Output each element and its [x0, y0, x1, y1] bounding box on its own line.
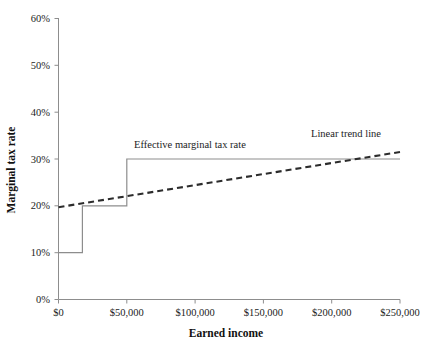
y-tick-label: 50%	[31, 60, 51, 71]
x-tick-label: $250,000	[380, 307, 419, 318]
x-tick-label: $100,000	[175, 307, 214, 318]
linear-trend-line	[59, 152, 401, 207]
x-tick-label: $200,000	[312, 307, 351, 318]
y-axis-tick-labels: 60% 50% 40% 30% 20% 10% 0%	[31, 13, 51, 305]
chart-container: 60% 50% 40% 30% 20% 10% 0% $0 $50,000 $1…	[0, 0, 425, 347]
y-tick-label: 30%	[31, 154, 51, 165]
y-tick-label: 0%	[36, 294, 50, 305]
x-tick-label: $150,000	[244, 307, 283, 318]
y-tick-label: 10%	[31, 247, 51, 258]
x-axis-tick-labels: $0 $50,000 $100,000 $150,000 $200,000 $2…	[53, 307, 419, 318]
linear-trend-line-label: Linear trend line	[311, 128, 381, 139]
x-axis-ticks	[59, 300, 401, 304]
y-tick-label: 20%	[31, 200, 51, 211]
y-tick-label: 40%	[31, 107, 51, 118]
x-tick-label: $0	[53, 307, 64, 318]
effective-marginal-tax-rate-step-line	[59, 159, 401, 253]
y-tick-label: 60%	[31, 13, 51, 24]
effective-marginal-tax-rate-label: Effective marginal tax rate	[134, 139, 246, 150]
x-tick-label: $50,000	[110, 307, 144, 318]
y-axis-ticks	[55, 19, 59, 300]
tax-rate-chart: 60% 50% 40% 30% 20% 10% 0% $0 $50,000 $1…	[0, 0, 425, 347]
y-axis-title: Marginal tax rate	[5, 127, 18, 214]
x-axis-title: Earned income	[189, 327, 263, 339]
